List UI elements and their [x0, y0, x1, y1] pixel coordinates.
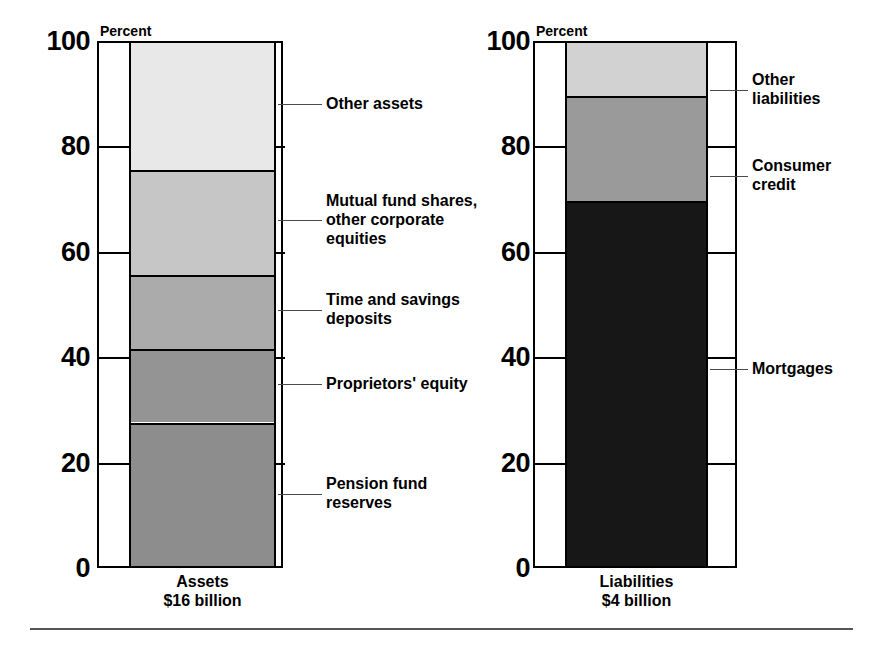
axis-tick-20: 20 [440, 450, 530, 477]
segment-proprietors-equity [131, 349, 274, 423]
leader-line-other-liabilities [710, 90, 748, 91]
percent-caption-liabilities: Percent [536, 24, 587, 38]
leader-line-mutual-fund-shares [278, 220, 322, 221]
segment-mortgages [567, 201, 706, 568]
axis-tick-0: 0 [440, 555, 530, 582]
stacked-bar-assets [129, 41, 276, 568]
axis-tick-40: 40 [0, 344, 90, 371]
leader-line-time-savings-deposits [278, 310, 322, 311]
axis-tick-0: 0 [0, 555, 90, 582]
stacked-bar-liabilities [565, 41, 708, 568]
frame-tick-left-20 [97, 463, 129, 465]
axis-tick-100: 100 [440, 28, 530, 55]
frame-tick-left-40 [533, 357, 565, 359]
chart-page: 100 80 60 40 20 0 Percent [0, 0, 883, 646]
bar-caption-assets: Assets $16 billion [129, 572, 276, 610]
leader-line-consumer-credit [710, 176, 748, 177]
callout-label-mortgages: Mortgages [752, 360, 833, 379]
segment-other-assets [131, 43, 274, 170]
axis-tick-40: 40 [440, 344, 530, 371]
panel-assets: 100 80 60 40 20 0 Percent [0, 0, 500, 646]
frame-tick-right-80 [708, 146, 737, 148]
axis-tick-20: 20 [0, 450, 90, 477]
frame-tick-right-60 [708, 252, 737, 254]
bar-caption-liabilities: Liabilities $4 billion [565, 572, 708, 610]
frame-tick-right-60 [276, 252, 285, 254]
segment-mutual-fund-shares [131, 170, 274, 275]
axis-tick-60: 60 [440, 239, 530, 266]
percent-caption-assets: Percent [100, 24, 151, 38]
frame-tick-left-80 [97, 146, 129, 148]
leader-line-proprietors-equity [278, 384, 322, 385]
axis-tick-80: 80 [440, 133, 530, 160]
frame-tick-left-40 [97, 357, 129, 359]
axis-tick-80: 80 [0, 133, 90, 160]
frame-tick-right-40 [708, 357, 737, 359]
segment-pension-fund-reserves [131, 423, 274, 569]
footer-divider [30, 628, 853, 630]
frame-tick-left-80 [533, 146, 565, 148]
frame-tick-right-80 [276, 146, 285, 148]
axis-tick-60: 60 [0, 239, 90, 266]
panel-liabilities: 100 80 60 40 20 0 Percent [440, 0, 883, 646]
callout-label-other-assets: Other assets [326, 95, 423, 114]
leader-line-other-assets [278, 104, 322, 105]
leader-line-pension-fund-reserves [278, 494, 322, 495]
segment-time-savings-deposits [131, 275, 274, 349]
segment-other-liabilities [567, 43, 706, 96]
frame-tick-right-20 [708, 463, 737, 465]
frame-tick-left-60 [97, 252, 129, 254]
callout-label-consumer-credit: Consumer credit [752, 157, 831, 195]
segment-consumer-credit [567, 96, 706, 201]
frame-tick-left-60 [533, 252, 565, 254]
axis-tick-100: 100 [0, 28, 90, 55]
callout-label-other-liabilities: Other liabilities [752, 71, 820, 109]
leader-line-mortgages [710, 369, 748, 370]
frame-tick-right-40 [276, 357, 285, 359]
frame-tick-right-20 [276, 463, 285, 465]
callout-label-pension-fund-reserves: Pension fund reserves [326, 475, 427, 513]
frame-tick-left-20 [533, 463, 565, 465]
